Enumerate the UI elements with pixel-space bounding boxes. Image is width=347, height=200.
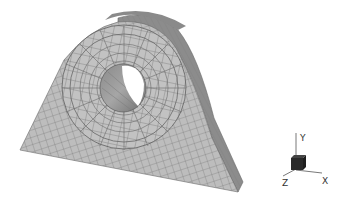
model-viewport[interactable]: Y X Z xyxy=(0,0,347,200)
y-axis-label: Y xyxy=(299,133,306,143)
x-axis-line xyxy=(296,170,322,173)
x-axis-label: X xyxy=(322,176,328,186)
z-axis-line xyxy=(283,169,296,176)
axis-triad: Y X Z xyxy=(282,133,328,188)
z-axis-label: Z xyxy=(282,178,288,188)
triad-cube xyxy=(291,158,303,170)
